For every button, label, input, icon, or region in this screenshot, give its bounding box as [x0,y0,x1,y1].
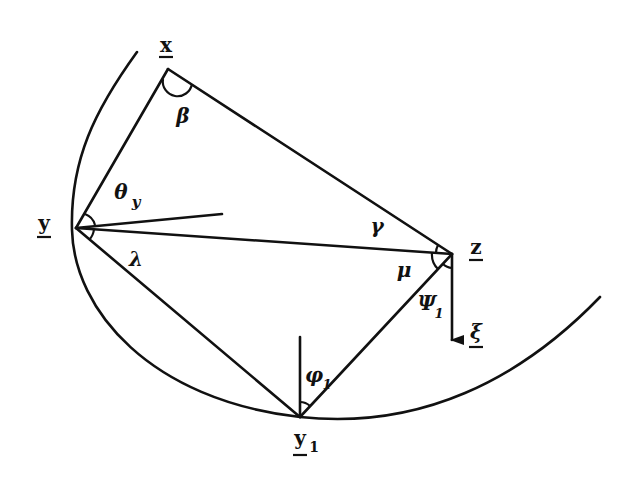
angle-arc-phi [300,402,310,406]
line-x-z [168,69,452,254]
label-angle-mu: μ [397,258,412,282]
line-y-y1 [76,228,300,417]
tangent-line-y [76,214,222,228]
svg-text:y: y [293,426,307,450]
angle-arc-psi [443,264,452,268]
svg-text:φ: φ [305,363,323,387]
svg-text:x: x [160,33,173,57]
svg-text:ξ: ξ [470,320,483,344]
line-z-y1 [300,254,452,417]
label-point-z: z [469,235,483,260]
svg-text:1: 1 [309,439,319,455]
label-angle-lambda: λ [128,247,143,271]
svg-text:z: z [470,235,481,259]
label-point-x: x [159,33,173,57]
label-angle-phi-1: φ 1 [305,363,332,392]
label-vector-xi: ξ [469,320,483,347]
line-x-y [76,69,168,228]
svg-text:y: y [37,211,51,235]
svg-text:1: 1 [322,377,331,392]
angle-arc-mu [432,253,438,269]
label-angle-theta-y: θ y [114,180,141,211]
label-angle-beta: β [175,104,189,128]
svg-text:y: y [131,193,142,211]
label-angle-gamma: γ [370,214,384,238]
label-angle-psi-1: Ψ 1 [418,291,444,321]
label-point-y: y [37,211,51,237]
label-point-y1: y 1 [293,426,319,455]
svg-text:1: 1 [434,306,443,321]
svg-text:θ: θ [114,180,128,204]
geometry-diagram: x y z y 1 ξ β γ θ y λ μ Ψ 1 φ 1 [0,0,638,490]
angle-arc-lambda [89,229,94,240]
trajectory-curve [72,52,600,419]
angle-arc-theta [85,214,95,225]
